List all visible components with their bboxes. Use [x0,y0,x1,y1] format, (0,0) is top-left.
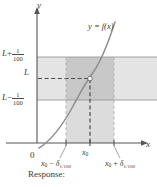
x-axis-label: x [146,140,150,149]
x-tick-center-subscript: 0 [86,151,89,157]
x-tick-right-op: + [113,159,118,168]
y-tick-upper-numerator: 1 [12,48,24,55]
y-tick-lower-denominator: 100 [12,99,24,106]
y-tick-lower-fraction: 1100 [12,92,24,106]
x-tick-left-delta-subscript: 1/100 [60,164,71,169]
x-tick-label-left: x0 − δ1/100 [41,160,71,169]
x-tick-label-right: x0 + δ1/100 [105,160,135,169]
y-tick-label-center: L [24,68,29,77]
origin-label: 0 [30,151,35,160]
y-tick-upper-fraction: 1100 [12,48,24,62]
leader-left [60,146,66,158]
y-tick-lower-numerator: 1 [12,92,24,99]
y-tick-label-upper: L+1100 [2,48,24,62]
x-tick-left-subscript: 0 [45,162,48,168]
y-axis-label: y [37,1,41,10]
x-tick-label-center: x0 [82,149,88,158]
y-tick-label-lower: L−1100 [2,92,24,106]
y-tick-upper-denominator: 100 [12,55,24,62]
x-tick-right-delta-subscript: 1/100 [124,164,135,169]
x-tick-right-subscript: 0 [109,162,112,168]
leader-right [114,146,120,158]
response-caption: Response: [28,170,65,179]
intersection-point [88,76,93,81]
limit-diagram-figure: y x 0 y = f(x) L+1100 L L−1100 x0 − δ1/1… [0,0,157,187]
x-tick-left-op: − [49,159,54,168]
horizontal-band-right-extension [114,57,157,100]
curve-label: y = f(x) [88,22,114,31]
